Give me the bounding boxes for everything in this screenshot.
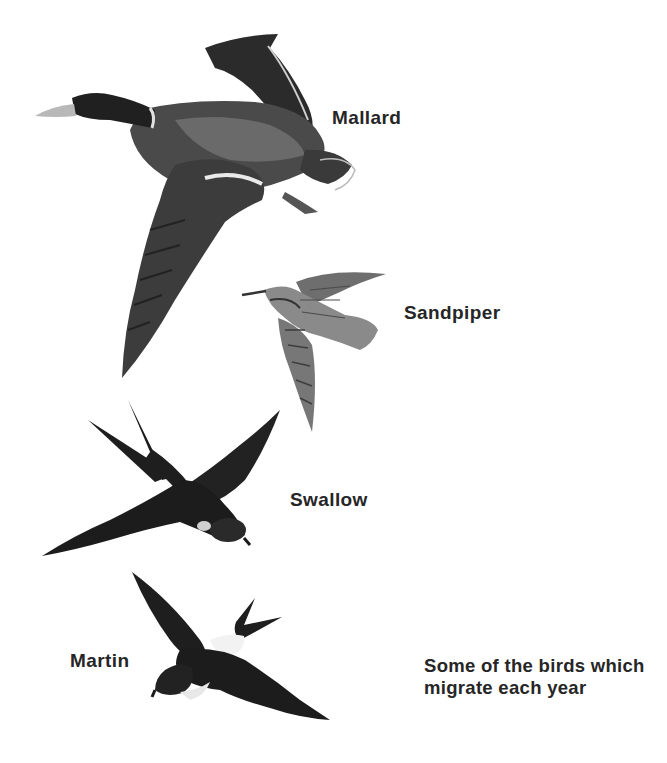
figure-caption: Some of the birds which migrate each yea…	[424, 655, 654, 699]
label-swallow: Swallow	[290, 489, 368, 511]
label-mallard: Mallard	[332, 107, 401, 129]
label-sandpiper: Sandpiper	[404, 302, 501, 324]
label-martin: Martin	[70, 650, 129, 672]
